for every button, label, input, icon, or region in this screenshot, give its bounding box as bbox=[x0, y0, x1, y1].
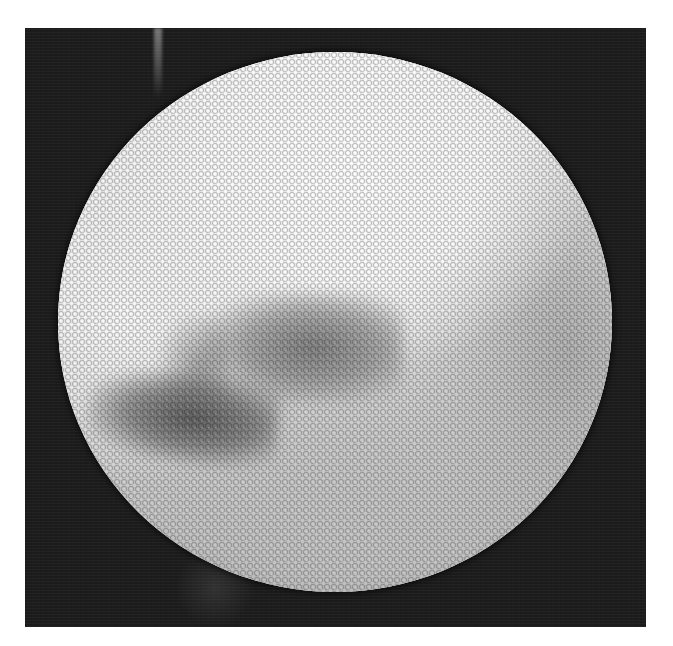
dark-frame bbox=[25, 28, 646, 627]
image-canvas bbox=[0, 0, 673, 646]
vignette-edge bbox=[58, 52, 612, 592]
endoscopic-field-of-view bbox=[58, 52, 612, 592]
